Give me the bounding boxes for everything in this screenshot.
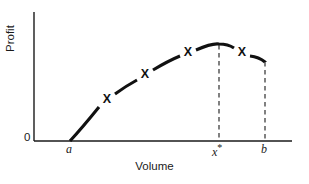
curve-segment-3 [153, 56, 180, 70]
data-marker-2: X [141, 67, 150, 81]
profit-volume-chart: X X X X Profit Volume 0 a x* b [0, 0, 309, 184]
curve-segment-5 [250, 56, 265, 62]
curve-segment-2 [115, 80, 137, 94]
data-marker-4: X [238, 45, 247, 59]
origin-label: 0 [24, 131, 30, 143]
x-axis-label: Volume [0, 160, 309, 172]
curve-segment-4 [196, 44, 234, 50]
curve-segment-1 [70, 107, 99, 141]
y-axis-label: Profit [4, 0, 16, 52]
tick-label-x-star-asterisk: * [217, 142, 222, 153]
data-marker-3: X [184, 45, 193, 59]
tick-label-a: a [66, 142, 72, 157]
data-marker-1: X [103, 92, 112, 106]
tick-label-b: b [261, 142, 267, 157]
tick-label-x-star: x* [212, 142, 222, 160]
